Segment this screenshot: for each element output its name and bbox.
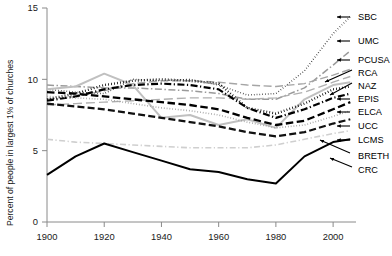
x-tick-label: 2000 [323,231,344,242]
y-tick-label: 0 [33,216,38,227]
series-line-crc-gray [47,131,350,148]
legend-label-lcms: LCMS [358,135,384,145]
x-tick-group: 190019201940196019802000 [37,222,344,242]
y-axis-title: Percent of people in largest 1% of churc… [5,60,15,226]
x-tick-label: 1940 [151,231,172,242]
x-tick-label: 1900 [37,231,58,242]
legend-arrowhead-elca [337,110,341,113]
x-tick-label: 1980 [265,231,286,242]
legend-label-rca: RCA [358,68,378,78]
legend-label-elca: ELCA [358,107,383,117]
x-tick-label: 1960 [208,231,229,242]
series-line-lcms [47,96,350,127]
y-tick-group: 051015 [28,2,47,227]
legend-label-ucc: UCC [358,121,378,131]
legend-arrowhead-sbc [337,15,341,18]
legend-label-breth: BRETH [358,151,389,161]
legend-arrowhead-umc [337,39,341,42]
legend-label-naz: NAZ [358,81,377,91]
x-tick-label: 1920 [94,231,115,242]
legend-arrowhead-ucc [337,124,341,127]
line-chart: Percent of people in largest 1% of churc… [0,0,392,256]
legend-label-crc: CRC [358,165,378,175]
legend-label-sbc: SBC [358,12,377,22]
axes [47,8,356,222]
series-line-elca [47,84,350,118]
series-line-crc [47,139,350,183]
chart-container: Percent of people in largest 1% of churc… [0,0,392,256]
y-tick-label: 5 [33,145,38,156]
legend-label-epis: EPIS [358,94,379,104]
y-tick-label: 15 [28,2,38,13]
series-group [47,17,350,184]
legend-label-umc: UMC [358,36,379,46]
legend-label-pcusa: PCUSA [358,55,391,65]
y-tick-label: 10 [28,74,38,85]
legend-arrowhead-epis [337,97,341,100]
y-axis-label: Percent of people in largest 1% of churc… [5,60,15,226]
